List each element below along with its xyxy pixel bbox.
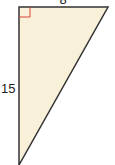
triangle-shape	[19, 7, 108, 165]
left-side-label: 15	[1, 81, 15, 96]
top-side-label: 8	[59, 0, 66, 7]
triangle-diagram: 8 15	[0, 0, 115, 165]
